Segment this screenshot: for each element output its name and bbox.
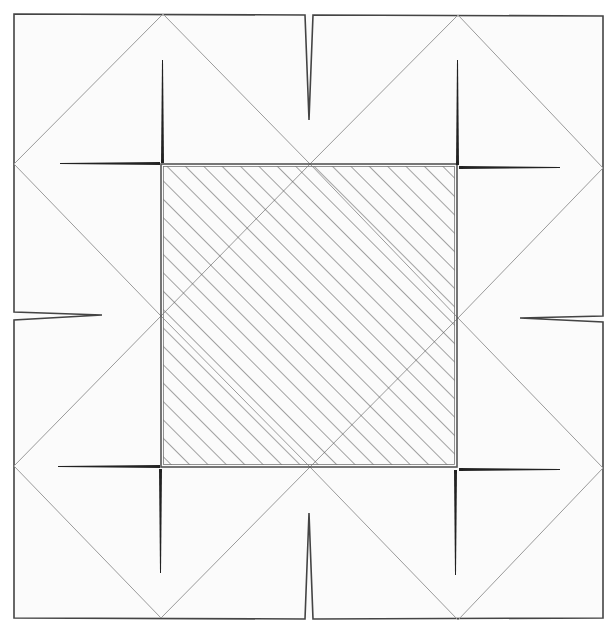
fold-diagram [0, 0, 608, 632]
center-hatched-square [163, 166, 455, 465]
